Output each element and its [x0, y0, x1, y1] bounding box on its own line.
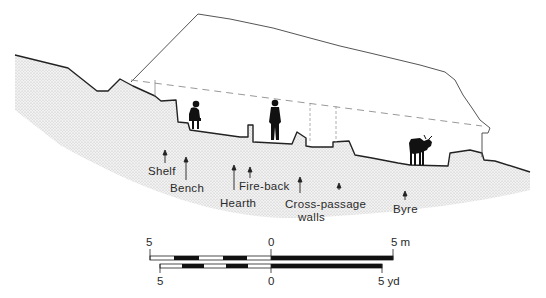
label-cross-passage-walls: walls — [298, 211, 325, 224]
longhouse-cross-section — [0, 0, 546, 298]
scale-imperial-left-label: 5 — [157, 275, 163, 287]
label-cross-passage: Cross-passage — [285, 198, 366, 211]
scale-bar-metric — [150, 249, 393, 260]
scale-metric-left-label: 5 — [146, 236, 152, 248]
cow-figure — [409, 135, 432, 165]
seated-person-figure — [189, 101, 201, 129]
scale-bar-imperial — [160, 264, 382, 273]
scale-metric-right-label: 5 m — [391, 236, 410, 248]
label-fire-back: Fire-back — [239, 180, 290, 193]
scale-imperial-right-label: 5 yd — [378, 275, 400, 287]
wall-top-dashed-line — [131, 80, 482, 126]
label-byre: Byre — [393, 203, 418, 216]
label-hearth: Hearth — [220, 197, 256, 210]
scale-metric-center-label: 0 — [268, 236, 274, 248]
standing-person-figure — [269, 100, 281, 140]
scale-imperial-center-label: 0 — [268, 275, 274, 287]
label-bench: Bench — [170, 182, 204, 195]
label-shelf: Shelf — [148, 165, 176, 178]
